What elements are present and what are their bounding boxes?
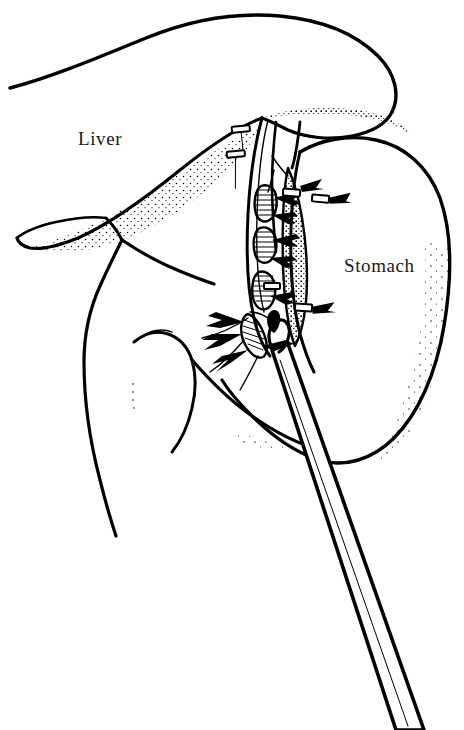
clip-mid-inner: [264, 283, 280, 289]
liver-label: Liver: [78, 128, 122, 149]
clip-mid-right-1: [283, 188, 301, 196]
surgical-illustration-figure: Liver Stomach: [0, 0, 464, 730]
stomach-label: Stomach: [344, 255, 415, 276]
illustration-canvas: Liver Stomach: [0, 0, 464, 730]
